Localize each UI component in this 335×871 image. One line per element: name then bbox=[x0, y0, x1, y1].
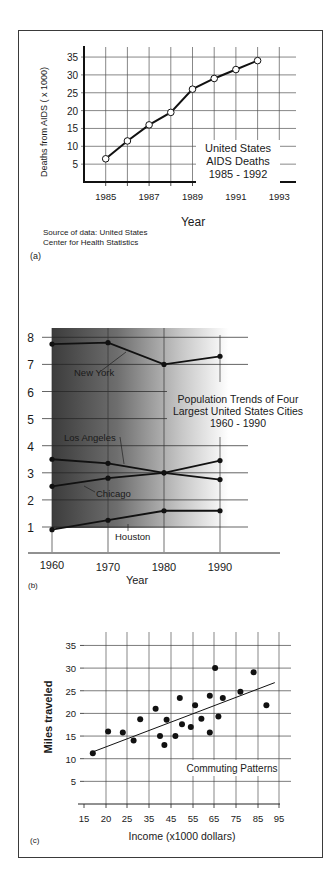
scatter-point bbox=[207, 729, 213, 735]
scatter-point bbox=[105, 729, 111, 735]
chart-b-xlabel: Year bbox=[126, 574, 149, 586]
data-point-marker bbox=[189, 86, 196, 93]
data-point-marker bbox=[49, 341, 54, 346]
panel-label-b: (b) bbox=[28, 581, 38, 590]
y-tick-label: 5 bbox=[72, 159, 78, 170]
scatter-point bbox=[172, 733, 178, 739]
scatter-point bbox=[153, 706, 159, 712]
y-tick-label: 5 bbox=[27, 413, 34, 427]
x-tick-label: 1993 bbox=[269, 191, 290, 202]
series-label: Houston bbox=[115, 531, 150, 542]
data-point-marker bbox=[161, 362, 166, 367]
x-tick-label: 1990 bbox=[208, 561, 232, 573]
chart-b-title-line2: Largest United States Cities bbox=[173, 405, 303, 417]
x-tick-label: 55 bbox=[188, 813, 199, 824]
data-point-marker bbox=[233, 66, 240, 73]
series-label: Los Angeles bbox=[64, 432, 116, 443]
data-point-marker bbox=[146, 122, 153, 129]
chart-a-title-line1: United States bbox=[205, 142, 272, 154]
data-point-marker bbox=[124, 138, 131, 145]
data-point-marker bbox=[105, 461, 110, 466]
data-point-marker bbox=[217, 508, 222, 513]
scatter-point bbox=[157, 733, 163, 739]
y-tick-label: 6 bbox=[27, 386, 34, 400]
x-tick-label: 15 bbox=[79, 813, 90, 824]
y-tick-label: 30 bbox=[65, 663, 76, 674]
chart-c-grid bbox=[78, 632, 291, 808]
data-point-marker bbox=[102, 155, 109, 162]
x-tick-label: 1960 bbox=[40, 559, 64, 571]
scatter-point bbox=[90, 750, 96, 756]
x-tick-label: 1970 bbox=[96, 561, 120, 573]
scatter-point bbox=[164, 717, 170, 723]
scatter-point bbox=[192, 702, 198, 708]
panel-label-c: (c) bbox=[30, 836, 40, 845]
scatter-point bbox=[215, 714, 221, 720]
chart-c-commuting-patterns: 510152025303515202535455565758595 Commut… bbox=[30, 632, 291, 845]
chart-c-trendline bbox=[93, 683, 275, 752]
scatter-point bbox=[137, 716, 143, 722]
data-point-marker bbox=[49, 457, 54, 462]
data-point-marker bbox=[217, 354, 222, 359]
chart-a-title-line3: 1985 - 1992 bbox=[209, 168, 268, 180]
x-tick-label: 85 bbox=[253, 813, 264, 824]
x-tick-label: 65 bbox=[209, 813, 220, 824]
scatter-point bbox=[131, 738, 137, 744]
x-tick-label: 20 bbox=[101, 813, 112, 824]
panel-label-a: (a) bbox=[30, 251, 41, 261]
x-tick-label: 95 bbox=[274, 813, 285, 824]
data-point-marker bbox=[105, 476, 110, 481]
figure-canvas: 510152025303519851987198919911993 United… bbox=[0, 0, 335, 871]
y-tick-label: 15 bbox=[65, 731, 76, 742]
data-point-marker bbox=[217, 458, 222, 463]
y-tick-label: 25 bbox=[65, 686, 76, 697]
scatter-point bbox=[179, 721, 185, 727]
x-tick-label: 1991 bbox=[225, 191, 246, 202]
y-tick-label: 3 bbox=[27, 467, 34, 481]
x-tick-label: 25 bbox=[122, 813, 133, 824]
series-label: Chicago bbox=[96, 488, 131, 499]
chart-c-title: Commuting Patterns bbox=[186, 763, 277, 774]
y-tick-label: 10 bbox=[65, 754, 76, 765]
x-tick-label: 1980 bbox=[152, 561, 176, 573]
scatter-point bbox=[177, 695, 183, 701]
data-point-marker bbox=[49, 484, 54, 489]
scatter-point bbox=[220, 695, 226, 701]
data-point-marker bbox=[105, 518, 110, 523]
y-tick-label: 1 bbox=[27, 521, 34, 535]
y-tick-label: 7 bbox=[27, 358, 34, 372]
data-point-marker bbox=[211, 75, 218, 82]
y-tick-label: 5 bbox=[71, 776, 76, 787]
chart-b-title-line3: 1960 - 1990 bbox=[210, 417, 266, 429]
chart-b-population-trends: 123456781960197019801990 New YorkLos Ang… bbox=[27, 328, 303, 590]
scatter-point bbox=[120, 729, 126, 735]
data-point-marker bbox=[217, 477, 222, 482]
chart-a-source-line2: Center for Health Statistics bbox=[43, 238, 138, 247]
y-tick-label: 35 bbox=[67, 52, 79, 63]
y-tick-label: 10 bbox=[67, 141, 79, 152]
y-tick-label: 15 bbox=[67, 123, 79, 134]
trendline bbox=[93, 683, 275, 752]
y-tick-label: 30 bbox=[67, 70, 79, 81]
chart-a-ylabel: Deaths from AIDS ( x 1000) bbox=[39, 67, 49, 177]
x-tick-label: 35 bbox=[144, 813, 155, 824]
data-point-marker bbox=[254, 57, 261, 64]
scatter-point bbox=[251, 669, 257, 675]
x-tick-label: 1989 bbox=[182, 191, 203, 202]
scatter-point bbox=[212, 665, 218, 671]
data-point-marker bbox=[105, 340, 110, 345]
y-tick-label: 20 bbox=[65, 708, 76, 719]
chart-a-xlabel: Year bbox=[181, 215, 205, 229]
y-tick-label: 25 bbox=[67, 88, 79, 99]
scatter-point bbox=[161, 742, 167, 748]
scatter-point bbox=[263, 702, 269, 708]
chart-b-title-line1: Population Trends of Four bbox=[178, 393, 299, 405]
scatter-point bbox=[198, 716, 204, 722]
chart-c-xlabel: Income (x1000 dollars) bbox=[129, 830, 236, 842]
y-tick-label: 4 bbox=[27, 440, 34, 454]
y-tick-label: 8 bbox=[27, 331, 34, 345]
x-tick-label: 1985 bbox=[95, 191, 116, 202]
scatter-point bbox=[207, 693, 213, 699]
x-tick-label: 1987 bbox=[139, 191, 160, 202]
y-tick-label: 35 bbox=[65, 640, 76, 651]
